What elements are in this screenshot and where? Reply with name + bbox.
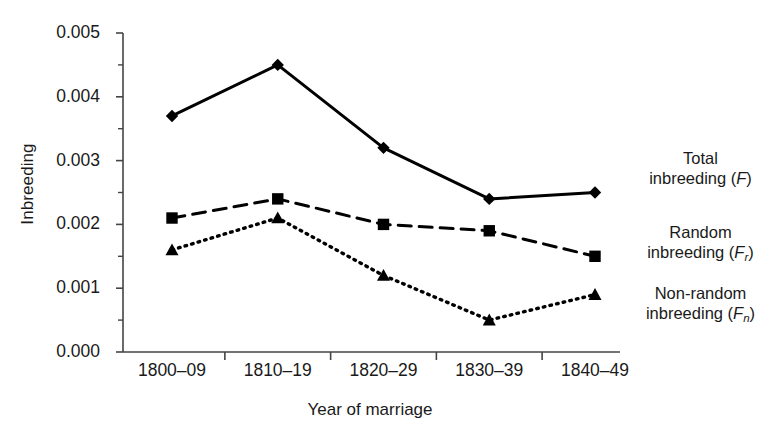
x-axis-title: Year of marriage — [110, 400, 630, 420]
data-point-triangle — [377, 269, 390, 281]
legend-entry-diamond: Totalinbreeding (F) — [618, 148, 783, 188]
data-point-diamond — [166, 110, 178, 122]
y-axis-tick-label: 0.001 — [8, 279, 100, 297]
data-point-diamond — [483, 193, 495, 205]
data-point-square — [272, 193, 283, 204]
y-axis-tick-label: 0.004 — [8, 88, 100, 106]
data-point-diamond — [589, 186, 601, 198]
data-point-square — [378, 219, 389, 230]
legend-symbol: F — [734, 243, 744, 261]
y-axis-tick-label: 0.003 — [8, 152, 100, 170]
legend-entry-line2: inbreeding (F) — [618, 168, 783, 188]
legend-symbol-subscript: n — [743, 312, 749, 324]
data-point-triangle — [165, 243, 178, 255]
legend-entry-square: Randominbreeding (Fr) — [618, 222, 783, 262]
series-line-diamond — [172, 65, 595, 199]
y-axis-tick-label: 0.002 — [8, 216, 100, 234]
chart-legend: Totalinbreeding (F)Randominbreeding (Fr)… — [618, 0, 783, 438]
legend-entry-line1: Non-random — [618, 283, 783, 303]
legend-entry-line2: inbreeding (Fr) — [618, 242, 783, 262]
legend-symbol: F — [733, 304, 743, 322]
legend-entry-triangle: Non-randominbreeding (Fn) — [618, 283, 783, 323]
y-axis-tick-label: 0.005 — [8, 24, 100, 42]
data-point-square — [166, 212, 177, 223]
legend-entry-line1: Total — [618, 148, 783, 168]
data-point-triangle — [271, 212, 284, 224]
legend-symbol-subscript: r — [744, 251, 748, 263]
data-point-square — [589, 251, 600, 262]
legend-symbol: F — [736, 169, 746, 187]
inbreeding-line-chart: Inbreeding 0.0000.0010.0020.0030.0040.00… — [0, 0, 783, 438]
y-axis-tick-label: 0.000 — [8, 343, 100, 361]
legend-entry-line2: inbreeding (Fn) — [618, 303, 783, 323]
data-point-square — [484, 225, 495, 236]
legend-entry-line1: Random — [618, 222, 783, 242]
